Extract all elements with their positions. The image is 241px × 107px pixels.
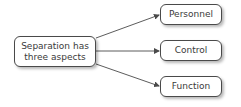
target-node-label: Personnel	[169, 9, 213, 20]
source-node-separation: Separation has three aspects	[14, 36, 96, 67]
target-node-label: Function	[172, 81, 210, 92]
target-node-control: Control	[160, 40, 222, 61]
arrow-to-function	[96, 64, 159, 86]
target-node-personnel: Personnel	[160, 4, 222, 25]
target-node-function: Function	[160, 76, 222, 97]
arrow-to-personnel	[96, 15, 159, 38]
source-node-label: Separation has three aspects	[21, 41, 89, 63]
target-node-label: Control	[175, 45, 208, 56]
